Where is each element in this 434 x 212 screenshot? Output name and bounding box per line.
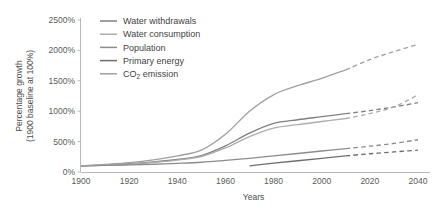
x-tick-label: 1940 (168, 176, 187, 186)
y-axis-tick-labels: 0%500%1000%1500%2000%2500% (49, 15, 81, 177)
x-tick-label: 2000 (312, 176, 331, 186)
legend-label-1: Water consumption (123, 29, 200, 39)
x-tick-label: 1920 (120, 176, 139, 186)
x-tick-label: 2020 (360, 176, 379, 186)
legend-label-4: CO2 emission (123, 69, 178, 80)
y-axis-title-line2: (1900 baseline at 100%) (25, 50, 35, 142)
series-line-projection-4 (346, 44, 418, 70)
chart-legend: Water withdrawalsWater consumptionPopula… (100, 16, 200, 80)
y-tick-label: 1000% (49, 106, 76, 116)
x-axis-tick-labels: 19001920194019601980200020202040 (72, 176, 428, 186)
chart-container: 0%500%1000%1500%2000%2500% 1900192019401… (0, 0, 434, 212)
line-chart: 0%500%1000%1500%2000%2500% 1900192019401… (0, 0, 434, 212)
series-line-projection-2 (346, 140, 418, 149)
series-line-projection-1 (346, 95, 418, 119)
legend-label-3: Primary energy (123, 56, 185, 66)
series-line-projection-0 (346, 103, 418, 114)
x-tick-label: 1980 (264, 176, 283, 186)
legend-label-0: Water withdrawals (123, 16, 197, 26)
y-axis-title-line1: Percentage growth (14, 60, 24, 132)
x-tick-label: 1900 (72, 176, 91, 186)
y-tick-label: 2000% (49, 45, 76, 55)
plot-spines (81, 18, 431, 173)
x-tick-label: 1960 (216, 176, 235, 186)
y-tick-label: 500% (53, 137, 75, 147)
series-line-solid-1 (81, 119, 346, 166)
series-line-projection-3 (346, 150, 418, 156)
x-tick-label: 2040 (409, 176, 428, 186)
y-axis-title: Percentage growth (1900 baseline at 100%… (14, 50, 35, 142)
legend-label-2: Population (123, 43, 166, 53)
x-axis-title: Years (243, 192, 264, 202)
y-tick-label: 1500% (49, 76, 76, 86)
series-line-solid-0 (81, 114, 346, 166)
y-tick-label: 2500% (49, 15, 76, 25)
